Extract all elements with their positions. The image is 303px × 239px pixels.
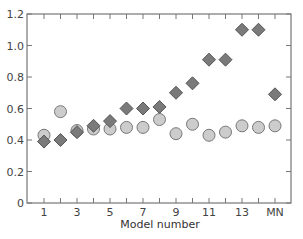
- diamond-marker: [153, 100, 166, 113]
- diamond-marker: [186, 77, 199, 90]
- circle-marker: [269, 120, 281, 132]
- y-tick-label: 1.0: [7, 40, 25, 53]
- y-tick-label: 0.2: [7, 166, 25, 179]
- y-tick-label: 1.2: [7, 8, 25, 21]
- diamond-marker: [252, 23, 265, 36]
- circle-marker: [187, 118, 199, 130]
- circle-marker: [121, 121, 133, 133]
- diamond-marker: [54, 134, 67, 147]
- x-tick-label: 11: [202, 206, 216, 219]
- diamond-marker: [219, 53, 232, 66]
- circle-marker: [236, 120, 248, 132]
- x-tick-label: 13: [235, 206, 249, 219]
- circle-marker: [220, 126, 232, 138]
- diamond-marker: [203, 53, 216, 66]
- x-tick-label: 1: [41, 206, 48, 219]
- circle-marker: [253, 121, 265, 133]
- diamond-marker: [236, 23, 249, 36]
- circle-marker: [55, 106, 67, 118]
- x-tick-label: MN: [266, 206, 284, 219]
- x-tick-label: 3: [74, 206, 81, 219]
- circle-marker: [137, 121, 149, 133]
- x-tick-label: 5: [107, 206, 114, 219]
- scatter-chart: 00.20.40.60.81.01.2 135791113MN Model nu…: [0, 0, 303, 239]
- y-tick-label: 0.4: [7, 134, 25, 147]
- circle-marker: [203, 129, 215, 141]
- diamond-marker: [269, 88, 282, 101]
- x-axis-title: Model number: [120, 218, 200, 231]
- y-tick-label: 0.8: [7, 71, 25, 84]
- y-tick-label: 0.6: [7, 103, 25, 116]
- diamond-marker: [137, 102, 150, 115]
- diamond-marker: [170, 86, 183, 99]
- circle-marker: [170, 128, 182, 140]
- diamond-marker: [120, 102, 133, 115]
- circle-marker: [154, 114, 166, 126]
- y-tick-label: 0: [17, 197, 24, 210]
